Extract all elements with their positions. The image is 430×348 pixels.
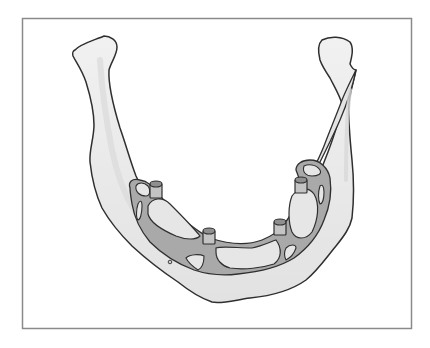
mandible-illustration bbox=[0, 0, 430, 348]
framework-window-right-slot bbox=[319, 185, 325, 204]
implant-post-left-molar bbox=[150, 181, 162, 198]
implant-post-anterior-right bbox=[274, 219, 286, 235]
implant-post-anterior-left bbox=[203, 228, 215, 244]
implant-post-right-molar bbox=[295, 177, 307, 193]
mental-foramen bbox=[168, 260, 172, 264]
